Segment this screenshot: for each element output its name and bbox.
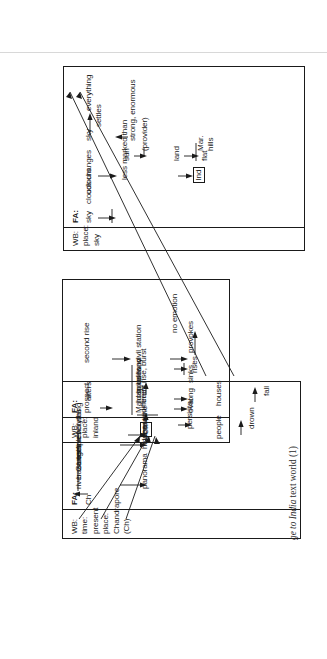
page-canvas: WB: time: present place: Chandrapore (Ch… <box>0 0 327 659</box>
figure-caption: ge to India text world (1) <box>288 446 298 540</box>
sky-arrows <box>0 0 327 659</box>
caption-title: India <box>288 500 298 520</box>
caption-prefix: ge to <box>288 519 298 540</box>
rotated-figure-canvas: WB: time: present place: Chandrapore (Ch… <box>0 0 327 659</box>
text-world-diagram: WB: time: present place: Chandrapore (Ch… <box>0 0 327 659</box>
caption-suffix: text world (1) <box>288 446 298 499</box>
